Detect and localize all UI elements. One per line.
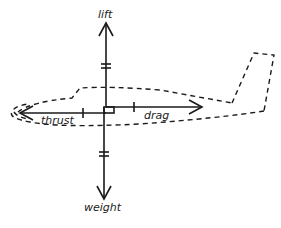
thrust-label: thrust — [41, 114, 75, 127]
right-angle-marker — [104, 107, 114, 113]
weight-label: weight — [84, 201, 122, 214]
force-diagram: lift weight thrust drag — [0, 0, 281, 228]
vertical-axis — [97, 23, 113, 199]
drag-label: drag — [144, 109, 169, 122]
lift-label: lift — [98, 8, 113, 21]
tail-fin — [232, 53, 274, 111]
